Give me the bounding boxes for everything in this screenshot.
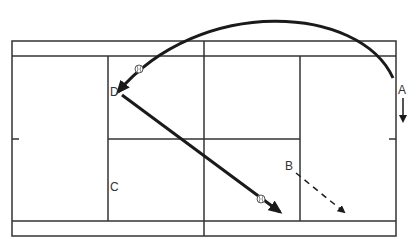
player-label-b: B [285, 159, 293, 173]
drive-shot-path [122, 95, 280, 212]
player-label-a: A [398, 83, 406, 97]
player-label-d: D [110, 85, 119, 99]
movement-b-path [296, 173, 344, 212]
tennis-ball-icon [135, 65, 143, 73]
tennis-ball-icon [257, 195, 265, 203]
tennis-court-diagram: A B C D [0, 0, 417, 246]
court [12, 41, 396, 236]
player-label-c: C [110, 180, 119, 194]
